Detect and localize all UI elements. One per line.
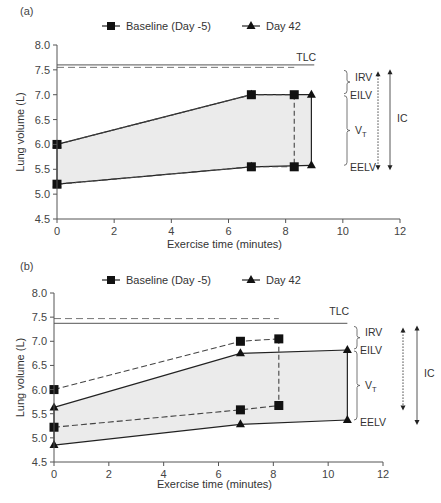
square-marker xyxy=(236,337,245,346)
x-tick-label: 10 xyxy=(322,468,334,480)
x-tick-label: 10 xyxy=(337,225,349,237)
arrowhead-up-icon xyxy=(415,325,420,330)
y-tick-label: 4.5 xyxy=(32,456,47,468)
y-tick-label: 7.5 xyxy=(35,64,50,76)
legend-label-day42: Day 42 xyxy=(266,274,301,286)
y-axis-title: Lung volume (L) xyxy=(14,338,26,418)
vt-label: VT xyxy=(355,124,367,139)
eilv-label: EILV xyxy=(360,344,382,356)
triangle-marker-icon xyxy=(247,21,256,29)
y-tick-label: 7.0 xyxy=(32,335,47,347)
square-marker-icon xyxy=(107,276,115,284)
ic-label: IC xyxy=(424,367,435,379)
triangle-marker xyxy=(236,348,245,356)
arrowhead-down-icon xyxy=(415,420,420,425)
y-tick-label: 4.5 xyxy=(35,213,50,225)
panel-label: (b) xyxy=(20,260,33,272)
arrowhead-down-icon xyxy=(401,406,406,411)
irv-label: IRV xyxy=(355,71,372,83)
triangle-marker-icon xyxy=(247,275,256,283)
legend: Baseline (Day -5)Day 42 xyxy=(102,274,301,286)
x-tick-label: 2 xyxy=(111,225,117,237)
legend-label-baseline: Baseline (Day -5) xyxy=(126,20,211,32)
x-axis-title: Exercise time (minutes) xyxy=(157,478,272,490)
panel-label: (a) xyxy=(20,5,33,17)
eilv-label: EILV xyxy=(350,89,372,101)
y-tick-label: 6.5 xyxy=(35,114,50,126)
eelv-label: EELV xyxy=(350,161,376,173)
panel-a: (a)Baseline (Day -5)Day 42TLC4.55.05.56.… xyxy=(14,5,408,250)
x-tick-label: 4 xyxy=(168,225,174,237)
x-axis-title: Exercise time (minutes) xyxy=(167,238,282,250)
arrowhead-up-icon xyxy=(401,327,406,332)
square-marker xyxy=(247,162,256,171)
x-tick-label: 12 xyxy=(377,468,389,480)
vt-label: VT xyxy=(365,379,377,394)
y-tick-label: 6.5 xyxy=(32,359,47,371)
legend: Baseline (Day -5)Day 42 xyxy=(102,20,301,32)
triangle-marker xyxy=(343,345,352,353)
arrowhead-up-icon xyxy=(376,71,381,76)
square-marker xyxy=(247,90,256,99)
y-tick-label: 6.0 xyxy=(35,138,50,150)
square-marker xyxy=(290,90,299,99)
vt-brace xyxy=(344,96,350,166)
y-tick-label: 5.5 xyxy=(32,408,47,420)
triangle-marker xyxy=(307,90,316,98)
vt-brace xyxy=(354,351,360,420)
x-tick-label: 0 xyxy=(54,225,60,237)
y-axis-title: Lung volume (L) xyxy=(14,92,26,172)
arrowhead-up-icon xyxy=(388,69,393,74)
y-tick-label: 7.5 xyxy=(32,311,47,323)
y-tick-label: 5.5 xyxy=(35,163,50,175)
shaded-tidal-area xyxy=(57,95,311,184)
tlc-label: TLC xyxy=(329,305,349,317)
shaded-tidal-area xyxy=(54,350,347,445)
y-tick-label: 8.0 xyxy=(32,287,47,299)
y-tick-label: 6.0 xyxy=(32,384,47,396)
y-tick-label: 8.0 xyxy=(35,39,50,51)
ic-label: IC xyxy=(397,112,408,124)
square-marker xyxy=(236,405,245,414)
irv-label: IRV xyxy=(365,326,382,338)
lung-volume-figure: (a)Baseline (Day -5)Day 42TLC4.55.05.56.… xyxy=(0,0,441,503)
x-tick-label: 2 xyxy=(106,468,112,480)
square-marker xyxy=(290,162,299,171)
eelv-label: EELV xyxy=(360,416,386,428)
x-tick-label: 0 xyxy=(51,468,57,480)
x-tick-label: 12 xyxy=(394,225,406,237)
square-marker-icon xyxy=(107,22,115,30)
legend-label-day42: Day 42 xyxy=(266,20,301,32)
square-marker xyxy=(274,334,283,343)
y-tick-label: 5.0 xyxy=(32,432,47,444)
panel-b: (b)Baseline (Day -5)Day 42TLC4.55.05.56.… xyxy=(14,260,435,490)
y-tick-label: 5.0 xyxy=(35,188,50,200)
arrowhead-down-icon xyxy=(388,165,393,170)
legend-label-baseline: Baseline (Day -5) xyxy=(126,274,211,286)
x-tick-label: 6 xyxy=(225,225,231,237)
arrowhead-down-icon xyxy=(376,165,381,170)
y-tick-label: 7.0 xyxy=(35,89,50,101)
tlc-label: TLC xyxy=(296,51,316,63)
square-marker xyxy=(274,401,283,410)
x-tick-label: 8 xyxy=(283,225,289,237)
